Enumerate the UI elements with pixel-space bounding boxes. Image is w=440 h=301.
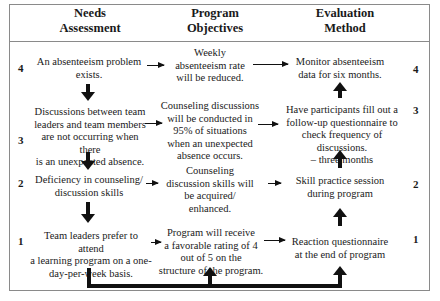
up-arrow-icon — [338, 90, 342, 98]
header-needs-assessment: Needs Assessment — [40, 6, 140, 36]
up-arrow-icon — [338, 216, 342, 226]
right-arrow-icon — [268, 183, 281, 184]
right-arrow-icon — [151, 242, 161, 243]
level-number-left: 4 — [18, 62, 24, 74]
right-arrow-icon — [264, 240, 285, 241]
evaluation-level-2: Skill practice session during program — [285, 175, 395, 200]
level-number-left: 3 — [18, 134, 24, 146]
up-arrow-icon — [338, 274, 342, 286]
need-level-4: An absenteeism problem exists. — [30, 56, 148, 81]
need-level-3: Discussions between team leaders and tea… — [30, 106, 150, 169]
level-number-right: 1 — [413, 233, 419, 245]
down-arrow-icon — [86, 152, 90, 162]
evaluation-level-1: Reaction questionnaire at the end of pro… — [285, 236, 395, 261]
level-number-left: 2 — [18, 177, 24, 189]
evaluation-level-4: Monitor absenteeism data for six months. — [285, 56, 395, 81]
level-number-right: 4 — [413, 63, 419, 75]
header-divider — [9, 41, 430, 42]
objective-level-4: Weekly absenteeism rate will be reduced. — [160, 47, 260, 85]
right-arrow-icon — [147, 65, 164, 66]
right-arrow-icon — [146, 183, 158, 184]
level-number-right: 2 — [413, 178, 419, 190]
level-number-left: 1 — [18, 235, 24, 247]
down-arrow-icon — [86, 202, 90, 215]
header-program-objectives: Program Objectives — [165, 6, 265, 36]
need-level-1: Team leaders prefer to attend a learning… — [30, 230, 152, 280]
level-number-right: 3 — [413, 104, 419, 116]
header-evaluation-method: Evaluation Method — [290, 6, 400, 36]
right-arrow-icon — [145, 123, 162, 124]
up-arrow-icon — [338, 158, 342, 168]
down-arrow-icon — [86, 84, 90, 93]
objective-level-2: Counseling discussion skills will be acq… — [155, 165, 265, 215]
objective-level-3: Counseling discussions will be conducted… — [155, 100, 265, 163]
right-arrow-icon — [258, 124, 278, 125]
up-arrow-icon — [208, 275, 212, 286]
need-level-2: Deficiency in counseling/ discussion ski… — [30, 174, 148, 199]
right-arrow-icon — [253, 64, 288, 65]
connector-horizontal — [87, 284, 342, 288]
